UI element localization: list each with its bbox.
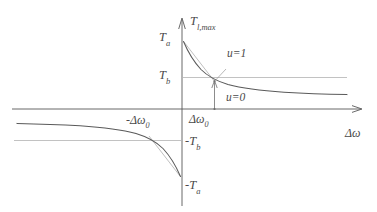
y-tick-label-ta: Ta [159,31,170,46]
upper-branch-curve [184,42,348,95]
figure-canvas: Tl,max Δω Ta Tb -Tb -Ta -Δω0 Δω0 u=1 u=0 [0,0,377,212]
y-axis-label: Tl,max [190,15,216,30]
annotation-u-equals-0: u=0 [226,92,245,104]
x-tick-label-neg-delta-omega-0: -Δω0 [126,114,150,130]
x-axis-label: Δω [345,127,361,139]
x-tick-label-delta-omega-0: Δω0 [189,113,209,129]
tangent-line-lower [149,136,180,176]
y-tick-label-neg-ta: -Ta [185,179,200,194]
u-transition-indicator [212,80,217,110]
annotation-u-equals-1: u=1 [227,48,246,60]
lower-branch-curve [17,123,181,176]
y-tick-label-tb: Tb [159,69,170,84]
tangent-line-upper [184,42,215,82]
x-axis [12,106,362,113]
y-tick-label-neg-tb: -Tb [185,135,200,150]
u1-leader-line [215,69,227,81]
